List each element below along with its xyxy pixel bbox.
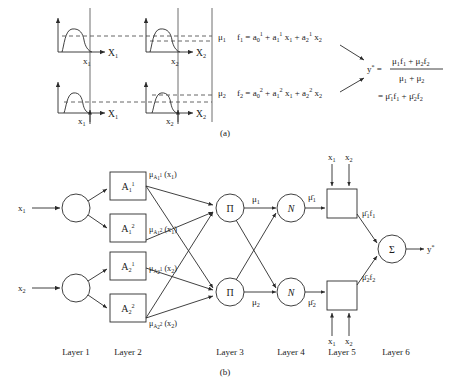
figure-canvas: X1 x1 X2 x2 X1 x1 (0, 0, 449, 384)
layer1-node-1[interactable] (62, 194, 90, 222)
edge-l1n2-to-A22 (88, 295, 107, 308)
panel-b: x1 x2 A11 A12 A21 A22 μA11 (x1) μA12 (x1… (18, 152, 435, 377)
mf-plot-top-left (58, 18, 212, 52)
layer6-node-sum-symbol: Σ (389, 244, 395, 255)
layer3-output-label-mu1: μ1 (252, 194, 260, 205)
layer3-node-pi2-symbol: Π (226, 287, 233, 298)
rule-2-mu-label: μ2 (218, 88, 226, 99)
point-label-x2-bottom-right: x2 (166, 116, 174, 127)
edge-l1n1-to-A12 (88, 215, 107, 228)
panel-a: X1 x1 X2 x2 X1 x1 (58, 8, 443, 138)
output-fraction-denominator: μ1 + μ2 (399, 73, 424, 84)
layer-label-2: Layer 2 (114, 347, 142, 357)
input-label-x1: x1 (18, 203, 26, 214)
membership-curve (150, 29, 180, 52)
point-label-x2-top-right: x2 (171, 56, 179, 67)
edge-A12-to-pi1 (146, 212, 213, 240)
edge-l1n2-to-A21 (88, 269, 107, 281)
membership-curve (62, 29, 92, 52)
layer5-node-2[interactable] (327, 281, 357, 310)
layer3-node-pi1-symbol: Π (226, 203, 233, 214)
axis-label-x2-top-right: X2 (196, 48, 206, 59)
membership-curve (64, 93, 89, 113)
layer5-node-1[interactable] (327, 189, 357, 218)
layer5-node-2-input-label-x1: x1 (328, 336, 336, 347)
layer4-node-n1-symbol: N (287, 203, 296, 214)
layer5-output-label-2: μ̄2f2 (362, 273, 375, 283)
caption-b: (b) (220, 367, 231, 377)
input-label-x2: x2 (18, 283, 26, 294)
layer-label-6: Layer 6 (382, 347, 410, 357)
caption-a: (a) (220, 128, 230, 138)
layer-label-3: Layer 3 (216, 347, 244, 357)
layer2-output-label-4: μA22 (x2) (149, 319, 177, 330)
output-label-y: y* (427, 243, 435, 254)
layer-label-4: Layer 4 (277, 347, 305, 357)
edge-A11-to-pi1 (146, 186, 213, 205)
edge-l1n1-to-A11 (88, 189, 107, 201)
edge-pi1-to-n2 (236, 220, 276, 288)
rule-1-equation: f1 = a01 + a11 x1 + a21 x2 (237, 30, 322, 43)
layer5-output-label-1: μ̄1f1 (362, 209, 375, 219)
layer3-output-label-mu2: μ2 (252, 297, 260, 308)
layer5-node-1-input-label-x1: x1 (328, 152, 336, 163)
layer2-output-label-1: μA11 (x1) (149, 170, 177, 181)
layer4-node-n2-symbol: N (287, 287, 296, 298)
axis-label-x1-top-left: X1 (108, 48, 118, 59)
layer-label-1: Layer 1 (62, 347, 90, 357)
axis-label-x2-bottom-right: X2 (196, 109, 206, 120)
rule-2-to-output-arrow (340, 78, 364, 92)
rule-1-to-output-arrow (340, 45, 364, 60)
edge-A22-to-pi2 (146, 296, 213, 318)
rule-1-mu-label: μ1 (218, 32, 226, 43)
axis-label-x1-bottom-left: X1 (108, 109, 118, 120)
layer1-node-2[interactable] (62, 274, 90, 302)
anfis-figure: X1 x1 X2 x2 X1 x1 (0, 0, 449, 384)
layer5-node-1-input-label-x2: x2 (345, 152, 353, 163)
edge-A22-to-pi1 (146, 212, 213, 318)
edge-A21-to-pi2 (146, 268, 213, 290)
point-label-x1-top-left: x1 (83, 56, 91, 67)
output-y-symbol: y* = (367, 63, 382, 74)
layer4-output-label-mubar2: μ̄2 (308, 297, 316, 308)
layer-label-5: Layer 5 (328, 347, 356, 357)
point-label-x1-bottom-left: x1 (78, 116, 86, 127)
output-fraction-numerator: μ1f1 + μ2f2 (392, 56, 430, 67)
membership-curve (152, 93, 177, 113)
rule-2-equation: f2 = a02 + a12 x1 + a22 x2 (237, 86, 322, 99)
edge-pi2-to-n1 (236, 213, 276, 280)
layer5-node-2-input-label-x2: x2 (345, 336, 353, 347)
mf-plot-top-right (146, 18, 212, 52)
output-second-form: = μ̄1f1 + μ̄2f2 (378, 91, 423, 102)
layer4-output-label-mubar1: μ̄1 (308, 192, 316, 203)
